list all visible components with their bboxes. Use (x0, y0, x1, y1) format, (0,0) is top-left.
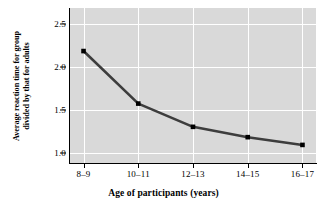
y-axis-ticks: 1.01.52.02.5 (42, 0, 66, 209)
x-tick-label: 16–17 (291, 169, 315, 179)
plot-area (70, 8, 316, 163)
y-tick-mark (60, 66, 66, 67)
y-axis-label: Average reaction time for group divided … (0, 0, 44, 172)
data-point-marker (136, 101, 141, 106)
x-tick-mark (138, 163, 139, 168)
data-series-line (70, 8, 316, 163)
x-tick-label: 8–9 (76, 169, 90, 179)
x-tick-mark (84, 163, 85, 168)
data-point-marker (245, 135, 250, 140)
x-tick-label: 14–15 (236, 169, 260, 179)
line-path (84, 51, 303, 145)
x-tick-mark (248, 163, 249, 168)
data-point-marker (81, 49, 86, 54)
y-axis-label-line-2: divided by that for adults (22, 31, 32, 141)
data-point-marker (300, 143, 305, 148)
y-tick-mark (60, 23, 66, 24)
x-tick-label: 10–11 (127, 169, 150, 179)
x-tick-mark (193, 163, 194, 168)
reaction-time-line-chart: Average reaction time for group divided … (0, 0, 327, 209)
y-tick-mark (60, 109, 66, 110)
data-point-markers (81, 49, 305, 147)
x-tick-label: 12–13 (181, 169, 205, 179)
x-tick-mark (302, 163, 303, 168)
x-axis-label: Age of participants (years) (0, 188, 327, 198)
y-tick-mark (60, 152, 66, 153)
y-axis-label-line-1: Average reaction time for group (12, 31, 22, 141)
data-point-marker (191, 125, 196, 130)
